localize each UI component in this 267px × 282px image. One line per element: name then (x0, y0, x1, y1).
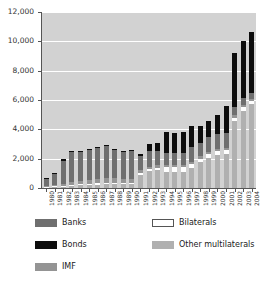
x-axis-tick-label: 1984 (83, 191, 89, 206)
bar-segment-imf (164, 165, 169, 167)
bar-segment-imf (44, 186, 49, 187)
bar-segment-other-multilaterals (241, 111, 246, 188)
bar-1995 (172, 133, 177, 188)
bar-segment-imf (95, 179, 100, 183)
bar-2001 (224, 106, 229, 188)
bar-segment-imf (241, 105, 246, 107)
bar-1993 (155, 143, 160, 188)
bar-segment-bilaterals (95, 183, 100, 184)
bar-1980 (44, 178, 49, 188)
bar-segment-bilaterals (61, 186, 66, 187)
bar-segment-bonds (112, 149, 117, 150)
y-axis-tick-label: 8,000 (13, 67, 34, 75)
bar-segment-bonds (215, 115, 220, 133)
bar-segment-bonds (172, 133, 177, 153)
x-axis-tick-label: 2001 (229, 191, 235, 206)
bar-segment-bilaterals (249, 101, 254, 105)
bar-segment-bilaterals (104, 183, 109, 184)
bar-segment-bonds (104, 145, 109, 146)
y-axis-tick-label: 12,000 (8, 8, 34, 16)
bar-segment-banks (172, 153, 177, 165)
stacked-bar-chart: 02,0004,0006,0008,00010,00012,000 198019… (0, 0, 267, 282)
bar-segment-banks (181, 153, 186, 165)
bar-segment-bilaterals (78, 184, 83, 185)
x-axis-tick-label: 2002 (237, 191, 243, 206)
bar-segment-bilaterals (155, 168, 160, 170)
bar-segment-banks (206, 137, 211, 152)
bar-segment-banks (138, 156, 143, 171)
legend-swatch-banks (35, 219, 57, 227)
chart-legend: Banks Bonds IMF Bilaterals Other multila… (0, 214, 267, 282)
bar-1987 (104, 145, 109, 188)
bar-segment-bilaterals (241, 107, 246, 111)
legend-label-bilaterals: Bilaterals (179, 218, 216, 227)
bar-segment-bilaterals (52, 186, 57, 187)
bar-segment-bonds (224, 106, 229, 133)
legend-swatch-other-multilaterals (152, 241, 174, 249)
bar-1991 (138, 154, 143, 188)
bar-segment-banks (249, 93, 254, 99)
bar-segment-bonds (164, 132, 169, 153)
bar-1999 (206, 121, 211, 188)
x-axis-tick-label: 1997 (194, 191, 200, 206)
bar-1982 (61, 159, 66, 188)
bar-segment-banks (232, 107, 237, 116)
bar-segment-bonds (52, 173, 57, 174)
bar-segment-bonds (147, 144, 152, 151)
bar-segment-bilaterals (87, 184, 92, 185)
legend-item-banks: Banks (35, 218, 86, 227)
x-axis-tick-label: 1996 (186, 191, 192, 206)
x-axis-tick-label: 2004 (254, 191, 260, 206)
bar-segment-bilaterals (172, 167, 177, 172)
bar-segment-banks (241, 98, 246, 105)
bar-1996 (181, 132, 186, 188)
bar-segment-imf (172, 165, 177, 167)
x-axis-tick-label: 1986 (100, 191, 106, 206)
bar-segment-bonds (181, 132, 186, 153)
bar-segment-imf (129, 179, 134, 183)
bar-segment-other-multilaterals (172, 172, 177, 188)
bar-segment-bilaterals (181, 167, 186, 172)
y-tick-mark (38, 129, 42, 130)
bar-segment-bilaterals (147, 169, 152, 171)
bar-segment-imf (155, 165, 160, 167)
legend-item-bonds: Bonds (35, 240, 87, 249)
bar-1986 (95, 147, 100, 188)
bar-segment-bilaterals (206, 154, 211, 158)
bar-segment-bonds (249, 32, 254, 93)
bar-1998 (198, 126, 203, 188)
bar-1981 (52, 173, 57, 188)
gridline (42, 12, 256, 13)
x-axis-tick-label: 2000 (220, 191, 226, 206)
bar-segment-imf (198, 156, 203, 158)
bar-segment-bonds (129, 150, 134, 151)
bar-segment-banks (164, 153, 169, 165)
bar-1985 (87, 149, 92, 188)
bar-segment-banks (61, 161, 66, 183)
y-axis-tick-label: 10,000 (8, 37, 34, 45)
bar-segment-banks (95, 148, 100, 179)
bar-segment-other-multilaterals (249, 104, 254, 188)
bar-segment-banks (104, 145, 109, 178)
bar-segment-imf (78, 181, 83, 185)
bar-segment-bonds (61, 159, 66, 162)
x-tick-mark (166, 189, 167, 192)
bar-segment-other-multilaterals (232, 121, 237, 188)
bar-1997 (189, 126, 194, 188)
x-axis-tick-label: 1983 (74, 191, 80, 206)
bar-segment-other-multilaterals (164, 172, 169, 188)
bar-1984 (78, 151, 83, 188)
bar-segment-other-multilaterals (155, 170, 160, 188)
bar-segment-other-multilaterals (147, 171, 152, 188)
bar-1992 (147, 144, 152, 188)
bar-segment-bilaterals (138, 173, 143, 175)
bar-segment-bonds (69, 151, 74, 152)
y-tick-mark (38, 188, 42, 189)
legend-label-bonds: Bonds (62, 240, 87, 249)
bar-segment-imf (189, 162, 194, 164)
bar-segment-bilaterals (198, 159, 203, 163)
bar-segment-bilaterals (121, 183, 126, 184)
x-axis-tick-label: 1981 (57, 191, 63, 206)
bar-segment-banks (52, 174, 57, 185)
bar-1988 (112, 149, 117, 188)
